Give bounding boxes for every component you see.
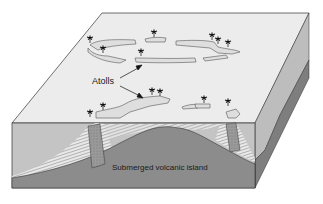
volcano-label: Submerged volcanic island [112, 163, 208, 172]
atolls-label: Atolls [92, 76, 115, 86]
atoll-block-diagram: Atolls Submerged volcanic island [0, 0, 323, 204]
